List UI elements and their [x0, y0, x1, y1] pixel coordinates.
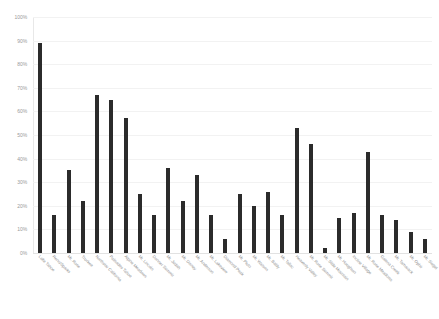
bar [380, 215, 384, 253]
bar [209, 215, 213, 253]
bar [266, 192, 270, 253]
gridline [33, 182, 432, 183]
bar [152, 215, 156, 253]
x-axis-tick-label: Mt. Tallac [280, 254, 296, 270]
bar [337, 218, 341, 253]
bar [409, 232, 413, 253]
bar-chart: 0%10%20%30%40%50%60%70%80%90%100% Lake T… [0, 0, 439, 319]
bar [38, 43, 42, 253]
bar [280, 215, 284, 253]
bar [81, 201, 85, 253]
y-axis-tick-label: 20% [17, 203, 27, 209]
bar [124, 118, 128, 253]
y-axis-tick-label: 40% [17, 156, 27, 162]
bar [366, 152, 370, 253]
bar [95, 95, 99, 253]
y-axis-tick-label: 50% [17, 132, 27, 138]
bar [323, 248, 327, 253]
bar [295, 128, 299, 253]
x-axis-tick-label: Truckee [80, 254, 94, 268]
bar [52, 215, 56, 253]
bar [181, 201, 185, 253]
y-axis-tick-label: 100% [15, 14, 27, 20]
y-axis-tick-label: 90% [17, 38, 27, 44]
bar [67, 170, 71, 253]
bar [238, 194, 242, 253]
bar [394, 220, 398, 253]
y-axis-tick-label: 10% [17, 226, 27, 232]
bar [109, 100, 113, 253]
y-axis-tick-labels: 0%10%20%30%40%50%60%70%80%90%100% [0, 17, 31, 253]
bar [223, 239, 227, 253]
bar [309, 144, 313, 253]
gridline [33, 17, 432, 18]
y-axis-tick-label: 70% [17, 85, 27, 91]
bar [138, 194, 142, 253]
bar [252, 206, 256, 253]
x-axis-tick-labels: Lake TahoeReno/SparksMt. RoseTruckeeNort… [33, 254, 432, 318]
gridline [33, 88, 432, 89]
bar [352, 213, 356, 253]
y-axis-tick-label: 30% [17, 179, 27, 185]
x-axis-tick-label: Mt. Siegel [422, 254, 438, 270]
gridline [33, 135, 432, 136]
bar [166, 168, 170, 253]
y-axis-tick-label: 0% [20, 250, 27, 256]
gridline [33, 229, 432, 230]
y-axis-tick-label: 60% [17, 108, 27, 114]
plot-area [33, 17, 432, 253]
gridline [33, 159, 432, 160]
gridline [33, 41, 432, 42]
gridline [33, 111, 432, 112]
y-axis-tick-label: 80% [17, 61, 27, 67]
bar [195, 175, 199, 253]
gridline [33, 64, 432, 65]
gridline [33, 206, 432, 207]
bar [423, 239, 427, 253]
